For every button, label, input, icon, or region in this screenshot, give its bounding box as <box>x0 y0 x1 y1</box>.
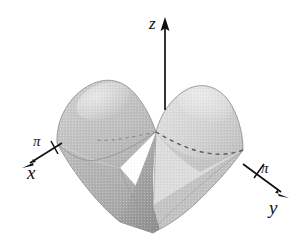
surface-plot-figure: z x y π π <box>0 0 308 242</box>
surface-halftone-overlay <box>57 80 243 233</box>
z-axis-label: z <box>149 15 156 32</box>
surface-body <box>57 75 243 233</box>
y-axis-label: y <box>269 198 277 217</box>
surface-plot-canvas <box>0 0 308 242</box>
x-axis-label: x <box>27 163 35 182</box>
y-axis-arrowhead <box>275 190 289 199</box>
y-axis-pi-tick-label: π <box>261 161 269 176</box>
x-axis-pi-tick-label: π <box>33 134 41 149</box>
